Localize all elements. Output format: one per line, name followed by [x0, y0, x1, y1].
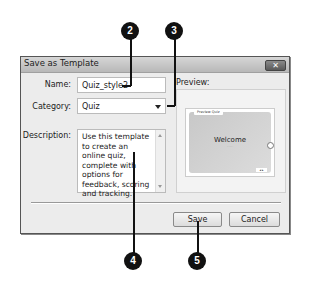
description-scrollbar[interactable]: [155, 130, 165, 192]
thumbnail-subtitle: ········: [189, 145, 271, 148]
category-value: Quiz: [82, 102, 100, 111]
thumbnail-slide: Preview Quiz Welcome ········ ◂ ▸: [189, 112, 271, 173]
description-label: Description:: [21, 131, 71, 140]
thumbnail-tab: Preview Quiz: [194, 110, 223, 115]
callout-5-leader: [197, 221, 199, 254]
callout-4-leader: [133, 152, 135, 254]
callout-3: 3: [165, 22, 183, 40]
save-as-template-dialog: Save as Template ✕ Name: Quiz_style2 Cat…: [20, 56, 290, 234]
callout-3-leader: [174, 38, 176, 106]
description-text: Use this template to create an online qu…: [82, 132, 149, 198]
separator: [31, 202, 281, 204]
chevron-down-icon: [155, 105, 161, 109]
dialog-title: Save as Template: [24, 58, 99, 68]
callout-2-leader: [130, 38, 132, 86]
template-thumbnail: Preview Quiz Welcome ········ ◂ ▸: [185, 108, 275, 177]
category-label: Category:: [25, 102, 71, 111]
thumbnail-heading: Welcome: [189, 136, 271, 144]
scroll-up-icon[interactable]: [158, 134, 162, 137]
close-button[interactable]: ✕: [265, 60, 286, 71]
callout-4: 4: [124, 252, 142, 270]
thumbnail-marker-icon: [267, 142, 274, 149]
callout-5: 5: [188, 252, 206, 270]
category-dropdown[interactable]: Quiz: [77, 98, 166, 114]
callout-2-leader-h: [122, 85, 131, 87]
callout-3-leader-h: [167, 105, 175, 107]
thumbnail-nav-icon: ◂ ▸: [256, 168, 267, 172]
preview-label: Preview:: [176, 78, 209, 87]
title-bar[interactable]: Save as Template ✕: [21, 57, 289, 73]
name-label: Name:: [25, 80, 71, 89]
scroll-down-icon[interactable]: [158, 185, 162, 188]
description-textarea[interactable]: Use this template to create an online qu…: [77, 129, 166, 193]
close-icon: ✕: [272, 61, 279, 70]
cancel-button[interactable]: Cancel: [229, 212, 280, 227]
preview-panel: Preview Quiz Welcome ········ ◂ ▸: [176, 89, 286, 193]
callout-2: 2: [121, 22, 139, 40]
